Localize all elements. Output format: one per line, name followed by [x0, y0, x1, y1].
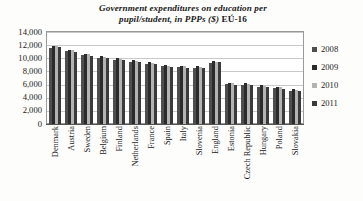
- x-axis-tick-label: England: [207, 125, 223, 199]
- x-axis-tick-text: Hungary: [259, 126, 268, 155]
- chart-title-suffix: EÚ-16: [222, 14, 248, 24]
- x-axis-tick-text: Czech Republic: [243, 126, 252, 179]
- bar: [90, 56, 93, 124]
- legend-swatch: [312, 83, 317, 88]
- bar: [250, 85, 253, 124]
- x-axis-tick-label: Italy: [175, 125, 191, 199]
- bar-group: [159, 32, 175, 124]
- y-axis-tick-label: 6,000: [0, 80, 42, 89]
- bar: [138, 62, 141, 124]
- x-axis-tick-label: Estonia: [223, 125, 239, 199]
- x-axis-tick-label: Denmark: [47, 125, 63, 199]
- x-axis-tick-label: Finland: [111, 125, 127, 199]
- bar: [122, 60, 125, 124]
- y-axis-tick-label: 14,000: [0, 28, 42, 37]
- bar-group: [287, 32, 303, 124]
- bar-group: [111, 32, 127, 124]
- bar-group: [63, 32, 79, 124]
- legend-label: 2009: [321, 63, 338, 72]
- chart-figure: Government expenditures on education per…: [0, 0, 363, 201]
- bar-group: [95, 32, 111, 124]
- bar-group: [47, 32, 63, 124]
- legend-item: 2009: [312, 58, 362, 76]
- bar: [58, 47, 61, 124]
- x-axis-tick-text: France: [147, 126, 156, 149]
- x-axis-tick-text: Estonia: [227, 126, 236, 151]
- x-axis-tick-text: Spain: [163, 126, 172, 145]
- bar: [282, 89, 285, 124]
- x-axis-tick-label: Czech Republic: [239, 125, 255, 199]
- legend-item: 2011: [312, 94, 362, 112]
- legend-swatch: [312, 65, 317, 70]
- x-axis-tick-label: Poland: [271, 125, 287, 199]
- x-axis-tick-label: Belgium: [95, 125, 111, 199]
- bar: [154, 64, 157, 124]
- x-axis-tick-text: Poland: [275, 126, 284, 149]
- y-axis-tick-label: 4,000: [0, 93, 42, 102]
- y-axis-tick-label: 2,000: [0, 106, 42, 115]
- bar: [170, 67, 173, 124]
- y-axis-tick-label: 10,000: [0, 54, 42, 63]
- x-axis-tick-text: Denmark: [51, 126, 60, 157]
- x-axis-tick-label: Slovenia: [191, 125, 207, 199]
- x-axis-tick-label: France: [143, 125, 159, 199]
- bar-group: [223, 32, 239, 124]
- bar-group: [191, 32, 207, 124]
- x-axis-tick-text: Netherlands: [131, 126, 140, 166]
- legend-label: 2010: [321, 81, 338, 90]
- bar: [202, 68, 205, 124]
- bar: [74, 52, 77, 124]
- y-axis-tick-label: 0: [0, 120, 42, 129]
- bar: [218, 62, 221, 124]
- x-axis-tick-text: Austria: [67, 126, 76, 151]
- x-axis-tick-text: Slovenia: [195, 126, 204, 155]
- chart-title: Government expenditures on education per…: [58, 3, 308, 25]
- x-axis-tick-label: Spain: [159, 125, 175, 199]
- chart-legend: 2008200920102011: [312, 40, 362, 112]
- bar-group: [143, 32, 159, 124]
- x-axis-tick-label: Sweden: [79, 125, 95, 199]
- x-axis-tick-text: England: [211, 126, 220, 154]
- x-axis-tick-label: Hungary: [255, 125, 271, 199]
- bar-group: [239, 32, 255, 124]
- x-axis-tick-text: Sweden: [83, 126, 92, 153]
- bar-group: [271, 32, 287, 124]
- bar-series-container: [47, 32, 303, 124]
- bar-group: [175, 32, 191, 124]
- legend-label: 2008: [321, 45, 338, 54]
- bar-group: [79, 32, 95, 124]
- legend-item: 2008: [312, 40, 362, 58]
- y-axis-tick-label: 12,000: [0, 41, 42, 50]
- legend-swatch: [312, 47, 317, 52]
- bar: [266, 87, 269, 124]
- x-axis-tick-text: Finland: [115, 126, 124, 152]
- legend-label: 2011: [321, 99, 338, 108]
- bar: [186, 68, 189, 125]
- chart-title-line1: Government expenditures on education per: [99, 3, 267, 13]
- chart-title-line2: pupil/student, in PPPs ($): [119, 14, 219, 24]
- legend-item: 2010: [312, 76, 362, 94]
- bar: [106, 58, 109, 124]
- x-axis-tick-label: Slovakia: [287, 125, 303, 199]
- y-axis-tick-label: 8,000: [0, 67, 42, 76]
- x-axis-tick-label: Netherlands: [127, 125, 143, 199]
- x-axis-tick-label: Austria: [63, 125, 79, 199]
- bar: [234, 85, 237, 124]
- bar-group: [127, 32, 143, 124]
- legend-swatch: [312, 101, 317, 106]
- bar-group: [207, 32, 223, 124]
- bar: [298, 91, 301, 124]
- x-axis-tick-text: Belgium: [99, 126, 108, 155]
- x-axis-tick-text: Italy: [179, 126, 188, 141]
- x-axis-tick-text: Slovakia: [291, 126, 300, 155]
- x-axis-labels: DenmarkAustriaSwedenBelgiumFinlandNether…: [47, 125, 303, 199]
- bar-group: [255, 32, 271, 124]
